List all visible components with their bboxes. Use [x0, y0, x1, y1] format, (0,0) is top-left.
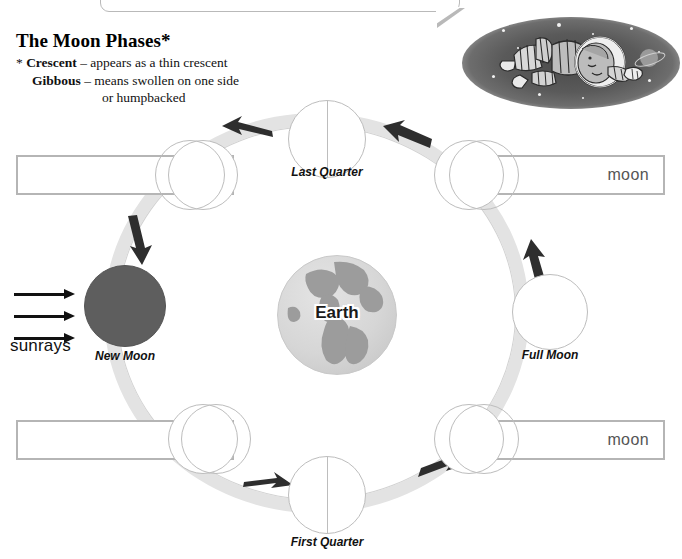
star-icon	[557, 23, 561, 27]
star-icon	[582, 97, 584, 99]
definition-dash: –	[84, 73, 91, 88]
definition-gibbous: Gibbous – means swollen on one side	[32, 72, 316, 89]
definition-crescent: * Crescent – appears as a thin crescent	[16, 54, 316, 71]
sunrays-label: sunrays	[10, 336, 71, 356]
moon-phase-full-moon	[512, 274, 588, 350]
definition-gibbous-cont: or humpbacked	[102, 89, 316, 106]
earth-globe: Earth	[277, 255, 397, 375]
definition-text: or humpbacked	[102, 90, 186, 105]
moon-phase-waning-gibbous-terminator	[449, 140, 519, 210]
earth-label: Earth	[278, 303, 396, 323]
moon-phases-worksheet: The Moon Phases* * Crescent – appears as…	[0, 0, 682, 559]
moon-phase-label-full-moon: Full Moon	[470, 348, 630, 362]
page-title: The Moon Phases*	[16, 30, 316, 51]
moon-phase-waning-crescent-terminator	[155, 140, 225, 210]
definition-marker: *	[16, 55, 23, 70]
definition-text: means swollen on one side	[94, 73, 239, 88]
star-icon	[648, 79, 651, 82]
star-icon	[492, 75, 495, 78]
moon-phase-waxing-crescent-terminator	[181, 404, 251, 474]
speech-bubble-tail-fill	[436, 7, 461, 24]
moon-phase-new-moon	[84, 265, 166, 347]
definitions-list: * Crescent – appears as a thin crescent …	[16, 54, 316, 106]
definition-term: Gibbous	[32, 73, 81, 88]
astronaut-icon	[496, 31, 646, 93]
space-illustration	[462, 17, 680, 109]
definition-text: appears as a thin crescent	[90, 55, 227, 70]
moon-phase-waxing-gibbous-terminator	[449, 404, 519, 474]
moon-phase-label-first-quarter: First Quarter	[247, 535, 407, 549]
definition-term: Crescent	[26, 55, 77, 70]
speech-bubble	[100, 0, 460, 12]
definition-dash: –	[80, 55, 87, 70]
heading-block: The Moon Phases* * Crescent – appears as…	[16, 30, 316, 106]
star-icon	[630, 27, 633, 30]
moon-phase-label-last-quarter: Last Quarter	[247, 165, 407, 179]
moon-phase-first-quarter-terminator	[327, 457, 328, 533]
star-icon	[538, 93, 541, 96]
